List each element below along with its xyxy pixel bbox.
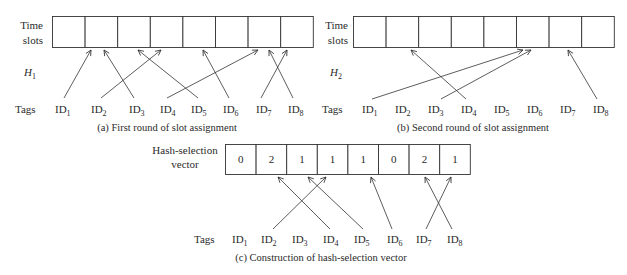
slot-a-1 [53,17,86,48]
hash-h1-label: H1 [23,66,36,81]
tag-c-7: ID7 [416,233,432,248]
tag-a-5: ID5 [191,103,207,118]
vector-value-1: 0 [238,153,244,165]
tag-a-7: ID7 [256,103,272,118]
tag-b-5: ID5 [494,103,510,118]
vector-value-5: 1 [360,153,366,165]
slot-a-5 [183,17,216,48]
tags-label-a: Tags [15,103,36,115]
slot-b-2 [386,17,419,48]
tag-a-4: ID4 [160,103,176,118]
vector-value-8: 1 [452,153,458,165]
tags-row-c: ID1 ID2 ID3 ID4 ID5 ID6 ID7 ID8 [232,233,463,248]
tag-c-4: ID4 [323,233,339,248]
time-slots-label-line2-b: slots [328,34,348,46]
vector-value-7: 2 [422,153,428,165]
tag-b-4: ID4 [461,103,477,118]
tag-b-1: ID1 [362,103,378,118]
caption-b: (b) Second round of slot assignment [397,122,549,134]
slot-a-8 [281,17,314,48]
slot-b-7 [549,17,582,48]
tag-b-7: ID7 [560,103,576,118]
tags-row-a: ID1 ID2 ID3 ID4 ID5 ID6 ID7 ID8 [55,103,304,118]
hash-h2-label: H2 [329,66,342,81]
vector-value-4: 1 [330,153,336,165]
panel-b: Time slots H2 Tags ID1 ID2 ID3 ID4 ID5 [322,17,614,135]
hash-selection-vector: 0 2 1 1 1 0 2 1 [226,145,471,175]
arrows-a [64,50,293,98]
slot-a-4 [150,17,183,48]
panel-c: Hash-selection vector 0 2 1 1 1 0 2 1 [152,144,470,264]
slot-a-7 [248,17,281,48]
slot-a-3 [118,17,151,48]
arrows-b [372,50,597,99]
slot-b-1 [354,17,387,48]
hash-selection-label-line2: vector [171,158,199,170]
panel-a: Time slots H1 Tags ID1 ID2 ID [15,17,313,135]
slot-assignment-diagram: Time slots H1 Tags ID1 ID2 ID [0,0,627,275]
tags-label-c: Tags [194,233,215,245]
slot-b-4 [451,17,484,48]
tag-b-3: ID3 [428,103,444,118]
slot-a-2 [85,17,118,48]
slot-a-6 [216,17,249,48]
tag-a-1: ID1 [55,103,71,118]
tag-b-2: ID2 [395,103,411,118]
hash-selection-label-line1: Hash-selection [152,144,218,156]
slot-b-5 [484,17,517,48]
tag-c-8: ID8 [447,233,463,248]
slot-b-8 [582,17,615,48]
vector-value-6: 0 [391,153,397,165]
tag-c-2: ID2 [261,233,277,248]
tag-a-2: ID2 [91,103,107,118]
tag-a-8: ID8 [288,103,304,118]
time-slots-row-b [354,17,615,48]
vector-value-3: 1 [299,153,305,165]
vector-value-2: 2 [269,153,275,165]
slot-b-6 [517,17,550,48]
tag-c-1: ID1 [232,233,248,248]
arrows-c [273,177,452,229]
tag-c-6: ID6 [387,233,403,248]
tag-b-8: ID8 [593,103,609,118]
tag-b-6: ID6 [527,103,543,118]
tag-a-3: ID3 [129,103,145,118]
time-slots-row-a [53,17,314,48]
tags-label-b: Tags [322,103,343,115]
time-slots-label-line1-b: Time [325,19,348,31]
tag-c-5: ID5 [354,233,370,248]
caption-c: (c) Construction of hash-selection vecto… [235,252,407,264]
caption-a: (a) First round of slot assignment [97,122,237,134]
tag-a-6: ID6 [223,103,239,118]
time-slots-label-line1: Time [20,19,43,31]
tags-row-b: ID1 ID2 ID3 ID4 ID5 ID6 ID7 ID8 [362,103,609,118]
tag-c-3: ID3 [292,233,308,248]
slot-b-3 [419,17,452,48]
time-slots-label-line2: slots [23,34,43,46]
